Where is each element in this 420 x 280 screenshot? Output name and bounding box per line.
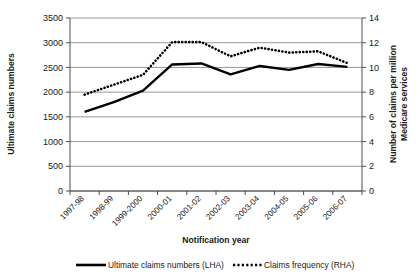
y-axis-left: 0500100015002000250030003500: [43, 13, 70, 196]
y-tick-label: 0: [58, 186, 63, 196]
y-tick-label: 500: [48, 161, 63, 171]
legend: Ultimate claims numbers (LHA) Claims fre…: [76, 260, 354, 270]
y2-tick-label: 10: [369, 63, 379, 73]
x-axis-label: 2000-01: [146, 194, 174, 222]
y2-tick-label: 8: [369, 87, 374, 97]
x-axis-label: 1999-2000: [110, 194, 144, 228]
y-tick-label: 3500: [43, 13, 63, 23]
x-axis-label: 2002-03: [204, 194, 232, 222]
y-tick-label: 2500: [43, 63, 63, 73]
legend-label-0: Ultimate claims numbers (LHA): [108, 260, 224, 270]
legend-label-1: Claims frequency (RHA): [264, 260, 354, 270]
x-axis-title: Notification year: [182, 235, 250, 245]
y-tick-label: 3000: [43, 38, 63, 48]
y-axis-left-title: Ultimate claims numbers: [6, 53, 16, 155]
y-tick-label: 1000: [43, 137, 63, 147]
y-axis-right: 02468101214: [362, 13, 379, 196]
line-chart: 0500100015002000250030003500 02468101214…: [0, 0, 420, 280]
x-axis-label: 1998-99: [88, 194, 116, 222]
x-axis-category-labels: 1997-981998-991999-20002000-012001-02200…: [58, 194, 349, 228]
y2-tick-label: 14: [369, 13, 379, 23]
y-tick-label: 1500: [43, 112, 63, 122]
y2-tick-label: 12: [369, 38, 379, 48]
grid-lines: [70, 18, 362, 191]
y-tick-label: 2000: [43, 87, 63, 97]
chart-container: 0500100015002000250030003500 02468101214…: [0, 0, 420, 280]
x-axis: [70, 191, 362, 195]
y2-tick-label: 6: [369, 112, 374, 122]
x-axis-label: 2005-06: [292, 194, 320, 222]
y2-tick-label: 0: [369, 186, 374, 196]
x-axis-label: 2004-05: [263, 194, 291, 222]
y2-tick-label: 2: [369, 161, 374, 171]
y-axis-right-title-line1: Number of claims per million: [388, 45, 398, 163]
x-axis-label: 2006-07: [321, 194, 349, 222]
series-lines: [85, 42, 348, 112]
x-axis-label: 2003-04: [234, 194, 262, 222]
y2-tick-label: 4: [369, 137, 374, 147]
y-axis-right-title-line2: Medicare services: [399, 67, 409, 141]
x-axis-label: 2001-02: [175, 194, 203, 222]
x-axis-label: 1997-98: [58, 194, 86, 222]
series-line-0: [85, 63, 348, 111]
